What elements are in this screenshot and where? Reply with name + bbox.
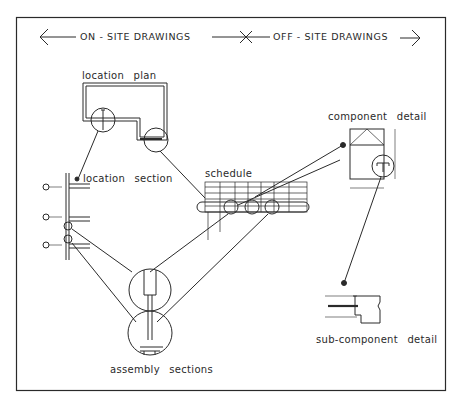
leader-line xyxy=(72,243,136,322)
leader-line xyxy=(150,214,228,272)
sub-component-detail-drawing xyxy=(325,296,380,323)
component-detail-label: component detail xyxy=(328,112,427,122)
leader-dot xyxy=(342,281,347,286)
sub-component-detail-label: sub-component detail xyxy=(316,335,437,345)
location-section-drawing xyxy=(43,173,90,260)
location-plan-label: location plan xyxy=(82,71,156,81)
on-site-heading: ON - SITE DRAWINGS xyxy=(80,32,191,42)
off-site-heading: OFF - SITE DRAWINGS xyxy=(273,32,388,42)
assembly-sections-drawing xyxy=(128,269,172,355)
schedule-table-drawing xyxy=(197,182,309,240)
leader-line xyxy=(344,177,381,283)
schedule-label: schedule xyxy=(205,169,252,179)
location-section-label: location section xyxy=(83,174,173,184)
leader-line xyxy=(157,214,268,322)
right-arrow-icon xyxy=(400,30,420,46)
left-arrow-icon xyxy=(40,29,76,45)
divider-line xyxy=(212,31,270,43)
leader-line xyxy=(72,229,132,272)
leader-line xyxy=(78,131,98,179)
assembly-sections-label: assembly sections xyxy=(110,365,213,375)
drawing-hierarchy-diagram: ON - SITE DRAWINGS OFF - SITE DRAWINGS l… xyxy=(0,0,459,408)
location-plan-drawing xyxy=(83,83,168,152)
diagram-graphics xyxy=(0,0,459,408)
